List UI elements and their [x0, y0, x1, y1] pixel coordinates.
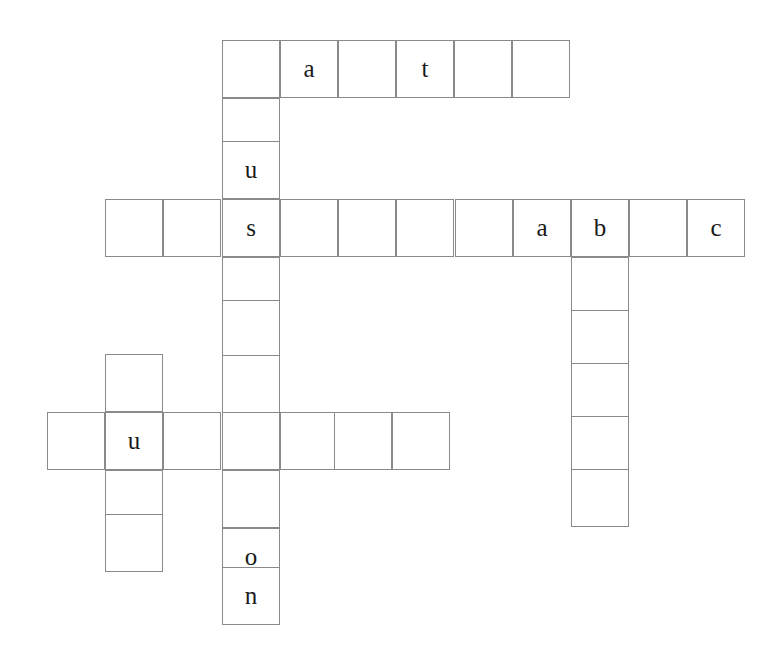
cell-letter: u [245, 157, 258, 182]
crossword-cell-empty[interactable] [338, 199, 396, 257]
cell-letter: a [303, 56, 314, 81]
crossword-grid: atusonabcu [0, 0, 779, 657]
crossword-cell-empty[interactable] [222, 355, 280, 413]
cell-letter: a [536, 215, 547, 240]
crossword-cell-empty[interactable] [105, 514, 163, 572]
crossword-cell-empty[interactable] [571, 257, 629, 315]
crossword-cell-empty[interactable] [455, 199, 513, 257]
crossword-cell-filled[interactable]: s [222, 199, 280, 257]
crossword-cell-empty[interactable] [222, 300, 280, 358]
crossword-cell-filled[interactable]: t [396, 40, 454, 98]
cell-letter: u [128, 428, 141, 453]
crossword-cell-empty[interactable] [571, 363, 629, 421]
crossword-cell-empty[interactable] [392, 412, 450, 470]
crossword-cell-filled[interactable]: u [105, 412, 163, 470]
crossword-cell-empty[interactable] [222, 40, 280, 98]
crossword-cell-empty[interactable] [163, 199, 221, 257]
crossword-cell-filled[interactable]: c [687, 199, 745, 257]
crossword-cell-empty[interactable] [396, 199, 454, 257]
crossword-cell-filled[interactable]: b [571, 199, 629, 257]
crossword-cell-empty[interactable] [571, 416, 629, 474]
crossword-cell-empty[interactable] [454, 40, 512, 98]
crossword-cell-empty[interactable] [512, 40, 570, 98]
crossword-cell-empty[interactable] [47, 412, 105, 470]
cell-letter: b [594, 215, 607, 240]
crossword-cell-empty[interactable] [222, 412, 280, 470]
crossword-cell-empty[interactable] [334, 412, 392, 470]
crossword-cell-empty[interactable] [280, 199, 338, 257]
cell-letter: s [246, 215, 256, 240]
cell-letter: o [245, 544, 258, 569]
cell-letter: c [710, 215, 721, 240]
crossword-cell-empty[interactable] [629, 199, 687, 257]
crossword-cell-empty[interactable] [338, 40, 396, 98]
cell-letter: n [245, 583, 258, 608]
crossword-cell-filled[interactable]: a [513, 199, 571, 257]
crossword-cell-filled[interactable]: a [280, 40, 338, 98]
crossword-cell-empty[interactable] [571, 469, 629, 527]
crossword-cell-empty[interactable] [105, 354, 163, 412]
crossword-cell-filled[interactable]: n [222, 567, 280, 625]
crossword-cell-empty[interactable] [222, 470, 280, 528]
crossword-cell-empty[interactable] [280, 412, 338, 470]
cell-letter: t [422, 56, 429, 81]
crossword-cell-empty[interactable] [163, 412, 221, 470]
crossword-cell-empty[interactable] [571, 310, 629, 368]
crossword-cell-filled[interactable]: u [222, 141, 280, 199]
crossword-puzzle: atusonabcu [0, 0, 779, 657]
crossword-cell-empty[interactable] [105, 199, 163, 257]
